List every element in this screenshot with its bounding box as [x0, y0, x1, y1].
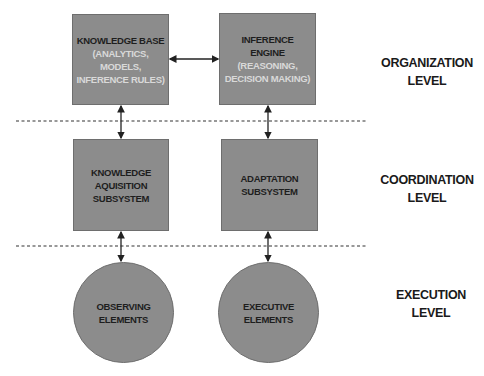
coordination-level-line-2: LEVEL	[372, 189, 482, 207]
coordination-level-label: COORDINATION LEVEL	[372, 171, 482, 207]
observing-line-1: OBSERVING	[96, 300, 150, 313]
executive-line-2: ELEMENTS	[244, 313, 293, 326]
knowledge-base-sub-1: (ANALYTICS,	[93, 47, 149, 60]
organization-level-line-2: LEVEL	[372, 72, 482, 90]
knowledge-base-title: KNOWLEDGE BASE	[77, 34, 165, 47]
execution-level-line-2: LEVEL	[376, 304, 484, 322]
organization-level-label: ORGANIZATION LEVEL	[372, 54, 482, 90]
execution-level-label: EXECUTION LEVEL	[376, 286, 484, 322]
observing-line-2: ELEMENTS	[99, 313, 148, 326]
inference-engine-title-2: ENGINE	[250, 46, 285, 59]
coordination-level-line-1: COORDINATION	[372, 171, 482, 189]
adaptation-line-2: SUBSYSTEM	[241, 185, 297, 198]
organization-level-line-1: ORGANIZATION	[372, 54, 482, 72]
knowledge-acquisition-line-3: SUBSYSTEM	[93, 192, 149, 205]
inference-engine-box: INFERENCE ENGINE (REASONING, DECISION MA…	[219, 13, 316, 105]
executive-elements-circle: EXECUTIVE ELEMENTS	[218, 262, 319, 363]
execution-level-line-1: EXECUTION	[376, 286, 484, 304]
knowledge-base-sub-3: INFERENCE RULES)	[76, 73, 164, 86]
knowledge-base-sub-2: MODELS,	[100, 60, 141, 73]
knowledge-base-box: KNOWLEDGE BASE (ANALYTICS, MODELS, INFER…	[72, 14, 169, 105]
inference-engine-sub-2: DECISION MAKING)	[225, 72, 310, 85]
executive-line-1: EXECUTIVE	[243, 300, 294, 313]
knowledge-acquisition-line-1: KNOWLEDGE	[91, 166, 151, 179]
adaptation-box: ADAPTATION SUBSYSTEM	[221, 139, 318, 231]
inference-engine-sub-1: (REASONING,	[237, 59, 297, 72]
knowledge-acquisition-box: KNOWLEDGE AQUISITION SUBSYSTEM	[73, 139, 169, 231]
knowledge-acquisition-line-2: AQUISITION	[95, 179, 147, 192]
observing-elements-circle: OBSERVING ELEMENTS	[73, 262, 174, 363]
inference-engine-title-1: INFERENCE	[241, 33, 293, 46]
adaptation-line-1: ADAPTATION	[241, 172, 299, 185]
